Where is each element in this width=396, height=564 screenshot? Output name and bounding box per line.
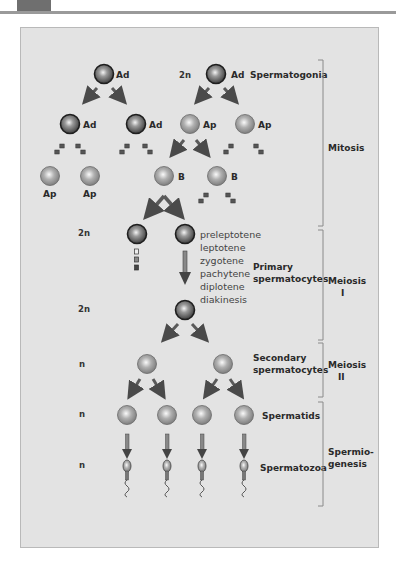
substage: zygotene <box>200 255 244 266</box>
stage-spermatozoa: Spermatozoa <box>260 463 327 473</box>
division-arrows <box>167 324 203 336</box>
cell-primary-diakinesis <box>176 301 195 320</box>
stage-spermatids: Spermatids <box>262 411 320 421</box>
ploidy-2n-row4: 2n <box>78 228 90 238</box>
cell-spermatid <box>158 406 177 425</box>
phase-meiosis-i: Meiosis <box>328 276 366 286</box>
ploidy-2n-row1: 2n <box>179 70 191 80</box>
dashed-continuation <box>199 193 235 203</box>
label-ap: Ap <box>203 120 217 130</box>
stage-primary-spermatocytes: Primary <box>253 262 293 272</box>
cell-ad <box>127 115 146 134</box>
sperm-cell <box>240 460 248 497</box>
cell-ap <box>181 115 200 134</box>
substage: diakinesis <box>200 294 247 305</box>
ploidy-n-spermatozoa: n <box>79 460 85 470</box>
label-ap: Ap <box>258 120 272 130</box>
ploidy-n-secondary: n <box>79 359 85 369</box>
prophase-arrow <box>179 251 191 285</box>
phase-meiosis-i: I <box>341 288 344 298</box>
substage: preleptotene <box>200 229 261 240</box>
stage-secondary-spermatocytes: Secondary <box>253 353 306 363</box>
cell-ap <box>236 115 255 134</box>
label-ad: Ad <box>83 120 96 130</box>
dashed-continuation <box>135 249 139 270</box>
label-ap: Ap <box>83 189 97 199</box>
ploidy-n-spermatids: n <box>79 409 85 419</box>
label-ap: Ap <box>43 189 57 199</box>
sperm-cell <box>163 460 171 497</box>
sperm-cell <box>198 460 206 497</box>
cell-b <box>208 167 227 186</box>
cell-ad <box>61 115 80 134</box>
phase-meiosis-ii: Meiosis <box>328 360 366 370</box>
cell-secondary <box>138 355 157 374</box>
substage: pachytene <box>200 268 250 279</box>
stage-spermatogonia: Spermatogonia <box>250 70 328 80</box>
cell-spermatid <box>235 406 254 425</box>
substage: leptotene <box>200 242 246 253</box>
label-b: B <box>178 172 185 182</box>
sperm-cell <box>123 460 131 497</box>
phase-spermiogenesis: genesis <box>328 459 367 469</box>
label-ad: Ad <box>116 70 129 80</box>
cell-b <box>155 167 174 186</box>
cell-primary-right <box>176 225 195 244</box>
substage: diplotene <box>200 281 245 292</box>
label-b: B <box>231 172 238 182</box>
cell-spermatid <box>118 406 137 425</box>
dashed-continuation <box>55 144 263 154</box>
cell-spermatid <box>193 406 212 425</box>
stage-primary-spermatocytes: spermatocytes <box>253 274 328 284</box>
cell-ad-right <box>207 65 226 84</box>
spermiogenesis-arrows <box>122 434 249 459</box>
phase-meiosis-ii: II <box>338 372 345 382</box>
division-arrows <box>175 140 205 151</box>
cell-primary-left <box>128 225 147 244</box>
phase-spermiogenesis: Spermio- <box>328 447 374 457</box>
phase-mitosis: Mitosis <box>328 143 364 153</box>
cell-ap <box>81 167 100 186</box>
division-arrows <box>88 88 233 98</box>
cell-ap <box>41 167 60 186</box>
stage-secondary-spermatocytes: spermatocytes <box>253 365 328 375</box>
cell-ad-left <box>95 65 114 84</box>
ploidy-2n-row5: 2n <box>78 304 90 314</box>
division-arrows <box>132 379 239 392</box>
label-ad: Ad <box>231 70 244 80</box>
split-arrow <box>150 196 178 212</box>
spermatogenesis-diagram: Ad 2n Ad Spermatogonia Ad Ad Ap Ap Ap Ap… <box>0 0 396 564</box>
label-ad: Ad <box>149 120 162 130</box>
cell-secondary <box>214 355 233 374</box>
